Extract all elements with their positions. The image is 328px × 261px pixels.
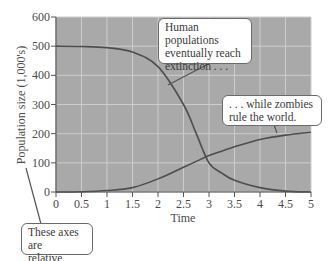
y-tick-label: 0 [44, 185, 50, 199]
x-tick-label: 1 [104, 197, 110, 211]
x-axis-ticks: 00.511.522.533.544.55 [53, 192, 314, 211]
x-tick-label: 4 [257, 197, 263, 211]
x-tick-label: 3 [206, 197, 212, 211]
x-tick-label: 2.5 [176, 197, 191, 211]
x-tick-label: 4.5 [278, 197, 293, 211]
callout-zombies: . . . while zombies rule the world. [222, 95, 322, 126]
y-tick-label: 100 [32, 156, 50, 170]
y-tick-label: 300 [32, 98, 50, 112]
y-tick-label: 200 [32, 127, 50, 141]
x-axis-title: Time [171, 211, 196, 225]
x-tick-label: 5 [308, 197, 314, 211]
x-tick-label: 0.5 [74, 197, 89, 211]
y-tick-label: 500 [32, 39, 50, 53]
y-tick-label: 600 [32, 10, 50, 24]
callout-humans: Human populations eventually reach extin… [158, 18, 252, 64]
x-tick-label: 3.5 [227, 197, 242, 211]
x-tick-label: 0 [53, 197, 59, 211]
y-axis-title: Population size (1,000's) [14, 46, 28, 164]
y-tick-label: 400 [32, 68, 50, 82]
y-axis-ticks: 0100200300400500600 [32, 10, 56, 199]
leader-line-axes [26, 168, 41, 224]
x-tick-label: 2 [155, 197, 161, 211]
x-tick-label: 1.5 [125, 197, 140, 211]
callout-axes: These axes are relative valves [21, 223, 93, 255]
